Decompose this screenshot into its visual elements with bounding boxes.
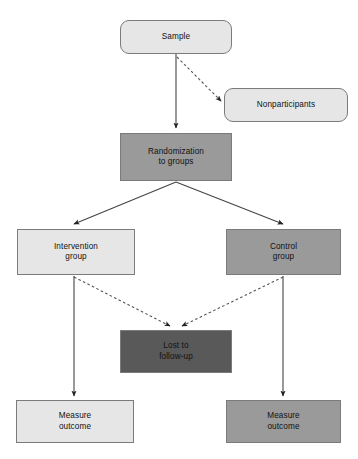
node-intervention-group-label: Intervention group bbox=[52, 242, 100, 263]
flowchart-diagram: Sample Nonparticipants Randomization to … bbox=[0, 0, 358, 459]
node-measure-outcome-right[interactable]: Measure outcome bbox=[226, 400, 341, 443]
edge-randomization-to-control bbox=[176, 182, 283, 224]
node-sample[interactable]: Sample bbox=[120, 20, 232, 54]
node-measure-outcome-right-label: Measure outcome bbox=[265, 411, 302, 432]
edge-sample-to-nonparticipants bbox=[177, 57, 221, 101]
node-measure-outcome-left-label: Measure outcome bbox=[57, 411, 94, 432]
edge-randomization-to-intervention bbox=[74, 182, 176, 224]
node-control-group[interactable]: Control group bbox=[226, 229, 341, 275]
node-intervention-group[interactable]: Intervention group bbox=[17, 229, 135, 275]
edge-control-to-lost bbox=[182, 277, 283, 326]
edge-intervention-to-lost bbox=[74, 277, 170, 326]
node-measure-outcome-left[interactable]: Measure outcome bbox=[16, 400, 134, 443]
node-lost-to-followup-label: Lost to follow-up bbox=[157, 341, 195, 362]
node-lost-to-followup[interactable]: Lost to follow-up bbox=[120, 330, 232, 373]
node-randomization[interactable]: Randomization to groups bbox=[120, 133, 232, 181]
node-nonparticipants-label: Nonparticipants bbox=[255, 100, 317, 111]
node-sample-label: Sample bbox=[160, 32, 192, 43]
node-control-group-label: Control group bbox=[268, 242, 299, 263]
node-nonparticipants[interactable]: Nonparticipants bbox=[224, 88, 348, 122]
node-randomization-label: Randomization to groups bbox=[146, 147, 206, 168]
